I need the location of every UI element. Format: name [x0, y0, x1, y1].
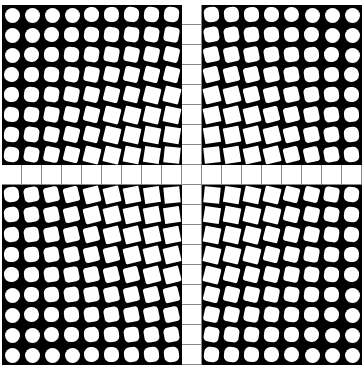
- square-shape: [243, 126, 262, 145]
- circle-shape: [44, 47, 60, 63]
- circle-shape: [4, 67, 19, 82]
- grid-cell: [222, 205, 242, 225]
- circle-shape: [44, 67, 61, 84]
- square-shape: [123, 146, 141, 164]
- grid-cell: [2, 205, 22, 225]
- grid-cell: [262, 265, 282, 285]
- square-shape: [303, 146, 321, 164]
- square-shape: [223, 326, 240, 343]
- square-shape: [143, 206, 161, 224]
- circle-shape: [284, 327, 300, 343]
- square-shape: [143, 86, 162, 105]
- grid-cell: [202, 145, 222, 165]
- circle-shape: [84, 7, 100, 23]
- grid-cell: [302, 225, 322, 245]
- grid-cell: [342, 265, 362, 285]
- square-shape: [123, 226, 142, 245]
- circle-shape: [44, 27, 59, 42]
- square-shape: [123, 306, 141, 324]
- square-shape: [303, 186, 321, 204]
- grid-cell: [22, 5, 42, 25]
- square-shape: [103, 186, 122, 205]
- grid-cell: [82, 245, 102, 265]
- grid-cell: [262, 225, 282, 245]
- square-shape: [263, 306, 280, 323]
- grid-cell: [82, 265, 102, 285]
- grid-cell: [302, 345, 322, 365]
- square-shape: [323, 146, 341, 164]
- cross-square: [182, 145, 202, 165]
- grid-cell: [102, 65, 122, 85]
- grid-cell: [242, 25, 262, 45]
- grid-cell: [322, 85, 342, 105]
- grid-cell: [142, 185, 162, 205]
- square-shape: [103, 46, 121, 64]
- grid-cell: [62, 65, 82, 85]
- square-shape: [223, 246, 242, 265]
- grid-cell: [262, 285, 282, 305]
- circle-shape: [5, 348, 20, 363]
- grid-cell: [282, 245, 302, 265]
- square-shape: [143, 66, 162, 85]
- square-shape: [43, 186, 61, 204]
- grid-cell: [242, 85, 262, 105]
- square-shape: [203, 26, 221, 44]
- grid-cell: [222, 45, 242, 65]
- square-shape: [203, 306, 221, 324]
- square-shape: [223, 206, 241, 224]
- grid-cell: [62, 225, 82, 245]
- square-shape: [143, 226, 162, 245]
- square-shape: [103, 146, 122, 165]
- grid-cell: [162, 285, 182, 305]
- grid-cell: [102, 265, 122, 285]
- grid-cell: [202, 65, 222, 85]
- grid-cell: [222, 345, 242, 365]
- square-shape: [263, 66, 281, 84]
- square-shape: [123, 206, 142, 225]
- circle-shape: [24, 287, 40, 303]
- square-shape: [23, 126, 40, 143]
- grid-cell: [302, 285, 322, 305]
- circle-shape: [344, 127, 361, 144]
- grid-cell: [122, 105, 142, 125]
- square-shape: [83, 126, 102, 145]
- circle-shape: [45, 348, 60, 363]
- grid-cell: [322, 125, 342, 145]
- grid-cell: [322, 185, 342, 205]
- circle-shape: [64, 307, 81, 324]
- square-shape: [23, 206, 41, 224]
- circle-shape: [65, 348, 80, 363]
- square-shape: [223, 306, 241, 324]
- square-shape: [43, 86, 60, 103]
- circle-shape: [264, 7, 280, 23]
- grid-cell: [282, 45, 302, 65]
- grid-cell: [262, 105, 282, 125]
- square-shape: [63, 266, 81, 284]
- grid-cell: [62, 125, 82, 145]
- grid-cell: [42, 245, 62, 265]
- grid-cell: [82, 65, 102, 85]
- square-shape: [123, 66, 142, 85]
- circle-shape: [344, 227, 360, 243]
- grid-cell: [142, 5, 162, 25]
- square-shape: [303, 206, 321, 224]
- grid-cell: [2, 145, 22, 165]
- grid-cell: [222, 85, 242, 105]
- square-shape: [243, 206, 262, 225]
- grid-cell: [302, 45, 322, 65]
- grid-cell: [262, 25, 282, 45]
- grid-cell: [222, 5, 242, 25]
- grid-cell: [322, 5, 342, 25]
- circle-shape: [345, 28, 360, 43]
- square-shape: [283, 86, 301, 104]
- cross-square: [182, 65, 202, 85]
- grid-cell: [22, 105, 42, 125]
- grid-cell: [342, 245, 362, 265]
- cross-square: [182, 345, 202, 365]
- grid-cell: [2, 305, 22, 325]
- circle-shape: [24, 267, 40, 283]
- grid-cell: [222, 325, 242, 345]
- grid-cell: [22, 345, 42, 365]
- grid-cell: [2, 225, 22, 245]
- square-shape: [223, 126, 241, 144]
